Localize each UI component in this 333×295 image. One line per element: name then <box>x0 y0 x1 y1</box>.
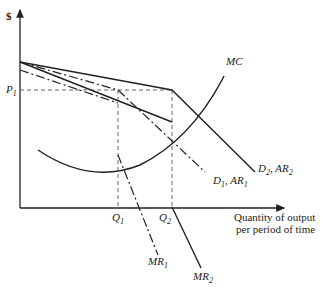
q1-label: Q1 <box>112 211 124 226</box>
mr2-label: MR2 <box>192 270 213 285</box>
d2-ar2-curve <box>20 62 255 172</box>
d1-ar1-label: D1, AR1 <box>212 174 248 189</box>
p1-label: P1 <box>5 83 17 98</box>
x-axis-label-line1: Quantity of output <box>234 211 315 223</box>
mr1-label: MR1 <box>147 255 168 270</box>
mr2-lower <box>172 207 201 268</box>
d1-ar1-upper <box>20 62 172 122</box>
mc-label: MC <box>225 55 243 67</box>
kinked-demand-diagram: $ P1 Q1 Q2 MC D1, AR1 D2, AR2 Quantity o… <box>0 0 333 295</box>
mr-upper <box>20 70 118 103</box>
q2-label: Q2 <box>159 211 171 226</box>
d2-ar2-label: D2, AR2 <box>257 162 293 177</box>
y-axis-label: $ <box>6 10 12 22</box>
x-axis-label-line2: per period of time <box>236 223 315 235</box>
